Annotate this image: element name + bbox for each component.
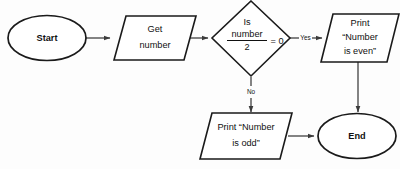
decision-fraction-denominator: 2	[244, 42, 249, 52]
print-even-label-line2: “Number	[342, 32, 378, 42]
node-get-number[interactable]: Get number	[114, 16, 196, 60]
edge-label-no: No	[247, 88, 256, 95]
get-number-parallelogram-shape	[114, 16, 196, 60]
print-odd-label-line2: is odd”	[232, 138, 260, 148]
node-end[interactable]: End	[318, 114, 396, 159]
node-decision-is-number-div-2-equals-0[interactable]: Is number 2 = 0	[212, 1, 290, 76]
print-odd-parallelogram-shape	[200, 113, 292, 159]
connector-decision-yes-to-print-even: Yes	[290, 34, 322, 41]
decision-label-line1: Is	[243, 17, 251, 27]
decision-comparison: = 0	[270, 36, 283, 46]
start-label: Start	[37, 33, 58, 43]
print-even-label-line1: Print	[351, 18, 370, 28]
node-print-number-is-odd[interactable]: Print “Number is odd”	[200, 113, 292, 159]
print-even-label-line3: is even”	[344, 46, 376, 56]
decision-fraction-numerator: number	[231, 29, 262, 39]
flowchart-diagram: Yes No Start Get number Is number	[0, 0, 400, 169]
end-label: End	[348, 131, 365, 141]
connector-decision-no-to-print-odd: No	[247, 77, 256, 112]
get-number-label-line2: number	[139, 40, 170, 50]
node-start[interactable]: Start	[8, 16, 86, 61]
edge-label-yes: Yes	[300, 34, 310, 41]
get-number-label-line1: Get	[148, 24, 163, 34]
node-print-number-is-even[interactable]: Print “Number is even”	[321, 14, 399, 62]
print-odd-label-line1: Print “Number	[217, 122, 274, 132]
